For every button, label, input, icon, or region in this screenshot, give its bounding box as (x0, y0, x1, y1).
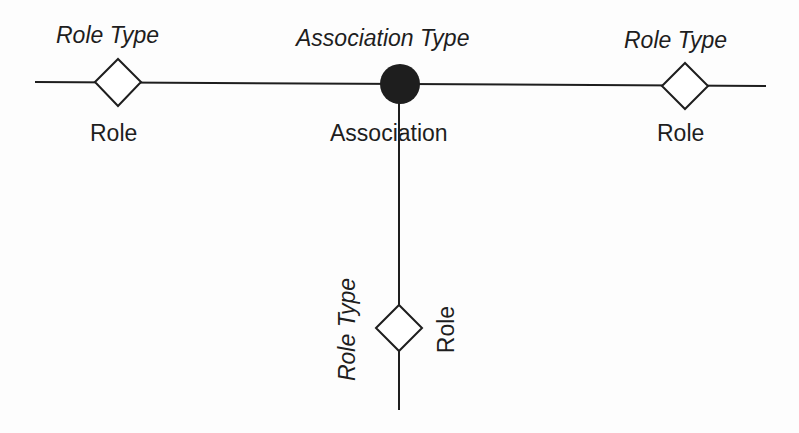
right-role-diamond-icon (662, 63, 708, 109)
association-type-label: Association Type (296, 27, 469, 50)
bottom-role-diamond-icon (376, 305, 422, 351)
topic-map-association-diagram: Role Type Role Association Type Associat… (0, 0, 799, 433)
left-role-diamond-icon (95, 59, 141, 106)
left-role-label: Role (90, 122, 137, 145)
left-role-type-label: Role Type (56, 24, 159, 47)
bottom-role-label: Role (435, 306, 458, 353)
bottom-role-type-label: Role Type (336, 278, 359, 381)
right-role-type-label: Role Type (624, 29, 727, 52)
association-label: Association (330, 122, 448, 145)
diagram-graphics (0, 0, 799, 433)
right-role-label: Role (657, 122, 704, 145)
association-node-icon (380, 64, 420, 104)
